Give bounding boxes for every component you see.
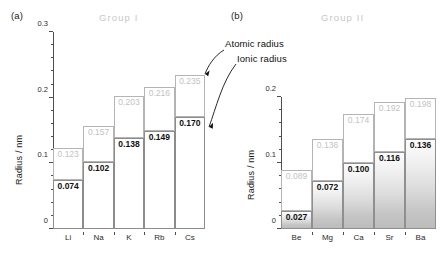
annotation-ionic-radius: Ionic radius: [237, 53, 287, 64]
y-tick-major: [277, 96, 281, 97]
x-category-be: Be: [281, 233, 312, 242]
x-tick: [312, 232, 313, 235]
y-tick-minor: [51, 44, 54, 45]
value-label-ionic: 0.102: [83, 163, 113, 173]
x-tick: [83, 232, 84, 235]
x-category-cs: Cs: [175, 233, 205, 242]
segment-ionic-radius: [175, 117, 205, 229]
y-tick-minor: [279, 122, 282, 123]
y-tick-label: 0.1: [38, 150, 48, 159]
y-tick-minor: [51, 70, 54, 71]
bar-k: 0.2030.138: [114, 96, 144, 229]
x-category-rb: Rb: [144, 233, 174, 242]
y-tick-minor: [51, 123, 54, 124]
y-tick-minor: [51, 57, 54, 58]
value-label-atomic: 0.192: [374, 103, 405, 113]
panel-b-label: (b): [231, 10, 243, 21]
value-label-atomic: 0.174: [343, 115, 374, 125]
y-tick-label: 0.1: [266, 150, 276, 159]
value-label-ionic: 0.149: [144, 132, 174, 142]
annotation-atomic-radius: Atomic radius: [225, 38, 284, 49]
y-tick-label: 0.2: [266, 84, 276, 93]
y-tick-major: [49, 97, 53, 98]
value-label-ionic: 0.027: [281, 212, 312, 222]
panel-a-title: Group I: [99, 12, 138, 23]
y-axis-label: Radius / nm: [14, 135, 24, 185]
segment-ionic-radius: [114, 138, 144, 229]
x-category-ca: Ca: [343, 233, 374, 242]
panel-a-label: (a): [11, 10, 23, 21]
value-label-atomic: 0.157: [83, 127, 113, 137]
x-category-li: Li: [53, 233, 83, 242]
value-label-ionic: 0.116: [374, 153, 405, 163]
x-category-ba: Ba: [405, 233, 436, 242]
value-label-atomic: 0.198: [405, 99, 436, 109]
value-label-atomic: 0.216: [144, 88, 174, 98]
y-tick-minor: [279, 149, 282, 150]
value-label-ionic: 0.136: [405, 140, 436, 150]
value-label-ionic: 0.072: [312, 182, 343, 192]
bar-ca: 0.1740.100: [343, 114, 374, 229]
value-label-atomic: 0.089: [281, 171, 312, 181]
bar-be: 0.0890.027: [281, 170, 312, 229]
segment-ionic-radius: [405, 139, 436, 229]
bar-sr: 0.1920.116: [374, 102, 405, 229]
y-tick-label: 0.3: [38, 19, 48, 28]
segment-ionic-radius: [374, 152, 405, 229]
segment-ionic-radius: [144, 131, 174, 229]
panel-b-title: Group II: [321, 12, 364, 23]
x-tick: [343, 232, 344, 235]
y-tick-label: 0: [272, 216, 276, 225]
x-category-na: Na: [83, 233, 113, 242]
x-tick: [144, 232, 145, 235]
x-category-k: K: [114, 233, 144, 242]
y-tick-major: [49, 31, 53, 32]
x-tick: [405, 232, 406, 235]
plot-area-group-2: 00.10.20.0890.027Be0.1360.072Mg0.1740.10…: [281, 97, 436, 229]
y-tick-label: 0: [44, 216, 48, 225]
x-tick: [114, 232, 115, 235]
bar-ba: 0.1980.136: [405, 98, 436, 229]
y-tick-minor: [279, 109, 282, 110]
value-label-atomic: 0.203: [114, 97, 144, 107]
value-label-ionic: 0.100: [343, 164, 374, 174]
y-tick-major: [277, 162, 281, 163]
y-tick-minor: [51, 136, 54, 137]
bar-rb: 0.2160.149: [144, 87, 174, 229]
x-tick: [175, 232, 176, 235]
y-axis-label: Radius / nm: [246, 150, 256, 200]
value-label-atomic: 0.235: [175, 76, 205, 86]
bar-mg: 0.1360.072: [312, 139, 343, 229]
bar-cs: 0.2350.170: [175, 75, 205, 229]
x-category-mg: Mg: [312, 233, 343, 242]
value-label-atomic: 0.123: [53, 149, 83, 159]
y-tick-minor: [279, 136, 282, 137]
plot-area-group-1: 00.10.20.30.1230.074Li0.1570.102Na0.2030…: [53, 32, 205, 229]
y-tick-minor: [51, 84, 54, 85]
bar-li: 0.1230.074: [53, 148, 83, 229]
x-tick: [374, 232, 375, 235]
bar-na: 0.1570.102: [83, 126, 113, 229]
value-label-ionic: 0.138: [114, 139, 144, 149]
value-label-ionic: 0.170: [175, 118, 205, 128]
value-label-ionic: 0.074: [53, 181, 83, 191]
y-tick-minor: [51, 110, 54, 111]
y-tick-label: 0.2: [38, 84, 48, 93]
panel-group-1: (a) Group I Radius / nm 00.10.20.30.1230…: [0, 0, 222, 267]
x-category-sr: Sr: [374, 233, 405, 242]
value-label-atomic: 0.136: [312, 140, 343, 150]
